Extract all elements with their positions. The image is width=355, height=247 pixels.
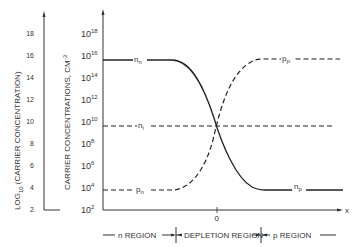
right-tick-label: 108 <box>81 138 95 149</box>
left-tick-label: 4 <box>30 184 34 191</box>
zero-tick-label: 0 <box>215 214 220 223</box>
main-y-axis: 10181016101410121010108106104102 <box>81 9 105 215</box>
p-region-label: p REGION <box>273 231 311 240</box>
left-tick-label: 6 <box>30 162 34 169</box>
np-label: np <box>294 182 302 192</box>
x-axis: x 0 <box>103 206 349 223</box>
left-tick-label: 12 <box>26 96 34 103</box>
left-y-axis-label: LOG10 (CARRIER CONCENTRATION) <box>13 71 24 210</box>
left-tick-label: 8 <box>30 140 34 147</box>
carrier-concentration-diagram: 18161412108642 LOG10 (CARRIER CONCENTRAT… <box>0 0 355 247</box>
region-legend: n REGION DEPLETION REGION p REGION <box>103 227 336 243</box>
n-region-label: n REGION <box>118 231 156 240</box>
x-axis-label: x <box>345 206 349 215</box>
left-log-axis: 18161412108642 <box>26 11 60 213</box>
left-tick-label: 18 <box>26 30 34 37</box>
right-tick-label: 1012 <box>81 94 98 105</box>
right-y-axis-label: CARRIER CONCENTRATIONS, CM-3 <box>62 54 72 190</box>
right-tick-label: 1010 <box>81 116 98 127</box>
right-tick-label: 104 <box>81 182 95 193</box>
right-tick-label: 102 <box>81 204 95 215</box>
right-tick-label: 1016 <box>81 50 98 61</box>
left-tick-label: 10 <box>26 118 34 125</box>
left-tick-label: 2 <box>30 206 34 213</box>
right-tick-label: 1014 <box>81 72 98 83</box>
right-tick-label: 106 <box>81 160 95 171</box>
left-tick-label: 14 <box>26 74 34 81</box>
left-tick-label: 16 <box>26 52 34 59</box>
right-tick-label: 1018 <box>81 28 98 39</box>
depletion-region-label: DEPLETION REGION <box>184 231 263 240</box>
